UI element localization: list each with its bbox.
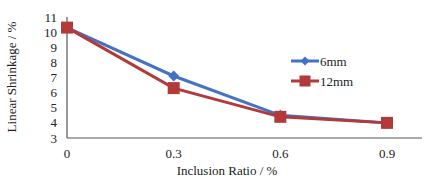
square-marker	[168, 82, 180, 94]
legend: 6mm12mm	[291, 54, 353, 89]
y-tick-label: 10	[44, 25, 57, 40]
y-tick-label: 4	[51, 115, 58, 130]
square-marker	[61, 22, 73, 34]
legend-label: 6mm	[320, 54, 347, 69]
x-tick-label: 0.9	[379, 146, 395, 161]
diamond-marker	[301, 57, 310, 66]
y-tick-label: 7	[51, 70, 58, 85]
line-chart: 34567891011 00.30.60.9 6mm12mm Inclusion…	[0, 0, 439, 187]
x-tick-label: 0.6	[272, 146, 289, 161]
legend-label: 12mm	[320, 74, 353, 89]
diamond-marker	[168, 70, 179, 81]
y-tick-label: 9	[51, 40, 58, 55]
square-marker	[381, 117, 393, 129]
x-tick-label: 0	[64, 146, 71, 161]
y-tick-label: 11	[44, 10, 57, 25]
legend-item-12mm: 12mm	[291, 74, 353, 89]
y-tick-label: 3	[51, 131, 58, 146]
y-tick-label: 6	[51, 85, 58, 100]
square-marker	[300, 76, 311, 87]
square-marker	[274, 111, 286, 123]
legend-item-6mm: 6mm	[291, 54, 347, 69]
y-axis-ticks: 34567891011	[44, 10, 58, 146]
x-axis-ticks: 00.30.60.9	[64, 146, 395, 161]
x-tick-label: 0.3	[166, 146, 182, 161]
x-axis-label: Inclusion Ratio / %	[177, 163, 278, 178]
y-tick-label: 5	[51, 100, 58, 115]
y-tick-label: 8	[51, 55, 58, 70]
